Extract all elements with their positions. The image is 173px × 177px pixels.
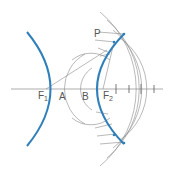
label-p: P	[94, 29, 101, 39]
label-a: A	[59, 92, 66, 102]
label-f1: F1	[38, 91, 48, 104]
label-f2: F2	[103, 91, 113, 104]
focal-lines	[46, 42, 114, 89]
label-b: B	[82, 92, 89, 102]
diagram-canvas	[0, 0, 173, 177]
construction-points	[113, 33, 126, 145]
hyperbola-diagram: F1 A B F2 P	[0, 0, 173, 177]
